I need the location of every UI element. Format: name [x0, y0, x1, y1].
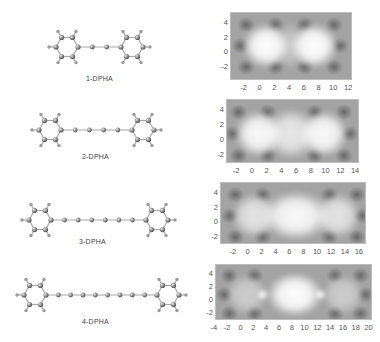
x-tick-label: 18	[352, 324, 360, 332]
y-tick-label: 4	[206, 189, 218, 197]
x-tick-label: 2	[260, 248, 264, 256]
x-tick-label: 4	[273, 248, 277, 256]
x-tick-label: -2	[233, 167, 240, 175]
x-tick-label: 8	[290, 324, 294, 332]
y-tick-label: -2	[216, 63, 228, 71]
x-tick-label: 0	[246, 248, 250, 256]
x-tick-label: 0	[238, 324, 242, 332]
y-tick-label: -2	[212, 151, 224, 159]
x-tick-label: 6	[277, 324, 281, 332]
x-tick-label: 6	[302, 84, 306, 92]
x-tick-label: 2	[272, 84, 276, 92]
y-tick-label: 2	[212, 121, 224, 129]
x-tick-label: -2	[240, 84, 247, 92]
x-tick-label: 14	[341, 248, 349, 256]
x-tick-label: 4	[279, 167, 283, 175]
x-tick-label: 6	[294, 167, 298, 175]
y-tick-label: 0	[206, 218, 218, 226]
x-tick-label: -4	[211, 324, 218, 332]
y-tick-label: 2	[216, 34, 228, 42]
y-tick-label: 0	[201, 296, 213, 304]
molecule-1-dpha: 1-DPHA	[0, 10, 200, 90]
molecule-3-dpha: 3-DPHA	[0, 176, 200, 256]
y-tick-label: 4	[212, 106, 224, 114]
x-tick-label: 16	[339, 324, 347, 332]
x-tick-label: 4	[287, 84, 291, 92]
density-map-image	[230, 12, 352, 80]
x-tick-label: 8	[301, 248, 305, 256]
x-tick-label: 6	[287, 248, 291, 256]
y-tick-label: 4	[216, 19, 228, 27]
x-tick-label: 14	[351, 167, 359, 175]
x-tick-label: 8	[309, 167, 313, 175]
molecule-4-dpha: 4-DPHA	[0, 256, 200, 336]
x-tick-label: 10	[321, 167, 329, 175]
x-tick-label: 4	[264, 324, 268, 332]
molecule-label-4: 4-DPHA	[82, 318, 109, 325]
x-tick-label: 2	[264, 167, 268, 175]
x-tick-label: 0	[257, 84, 261, 92]
x-tick-label: 10	[313, 248, 321, 256]
x-tick-label: 12	[313, 324, 321, 332]
y-tick-label: -2	[206, 233, 218, 241]
y-tick-label: 0	[216, 48, 228, 56]
molecule-structure-2	[0, 93, 200, 173]
molecule-2-dpha: 2-DPHA	[0, 93, 200, 173]
x-tick-label: 8	[317, 84, 321, 92]
x-tick-label: 20	[364, 324, 372, 332]
x-tick-label: 16	[355, 248, 363, 256]
x-tick-label: 10	[329, 84, 337, 92]
x-tick-label: -2	[223, 324, 230, 332]
molecule-label-1: 1-DPHA	[86, 75, 113, 82]
y-tick-label: -2	[201, 309, 213, 317]
y-tick-label: 2	[206, 204, 218, 212]
density-map-image	[215, 264, 372, 320]
y-tick-label: 2	[201, 283, 213, 291]
x-tick-label: 0	[250, 167, 254, 175]
molecule-label-3: 3-DPHA	[79, 238, 106, 245]
y-tick-label: 0	[212, 136, 224, 144]
density-map-image	[220, 182, 366, 244]
y-tick-label: 4	[201, 270, 213, 278]
molecule-label-2: 2-DPHA	[82, 153, 109, 160]
x-tick-label: 10	[300, 324, 308, 332]
x-tick-label: 12	[344, 84, 352, 92]
x-tick-label: -2	[230, 248, 237, 256]
x-tick-label: 14	[326, 324, 334, 332]
x-tick-label: 12	[336, 167, 344, 175]
x-tick-label: 2	[251, 324, 255, 332]
density-map-image	[226, 99, 359, 163]
x-tick-label: 12	[327, 248, 335, 256]
